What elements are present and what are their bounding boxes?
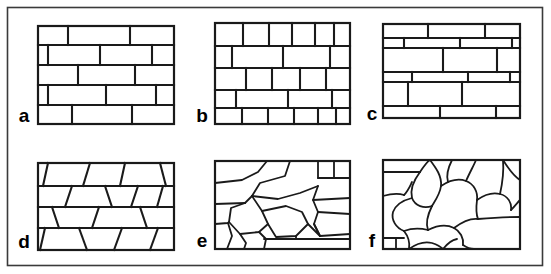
panel-a-coursed-running-bond: a [19,26,174,126]
panel-f-rounded-cobble: f [369,160,520,251]
panel-b-small-block-coursed: b [196,23,350,126]
panel-d-trapezoidal-coursed: d [18,163,174,252]
panel-d-label: d [18,231,30,252]
panel-a-border [38,26,174,124]
panel-b-label: b [196,105,208,126]
panel-f-label: f [369,230,376,251]
masonry-pattern-diagram: a [0,0,551,274]
panel-e-label: e [197,230,208,251]
panel-f-border [383,160,520,249]
panel-a-label: a [19,105,30,126]
panel-c-alternating-course-height: c [367,24,520,124]
panel-e-irregular-polygonal: e [197,161,350,251]
figure-container: a [0,0,551,274]
panel-c-label: c [367,103,378,124]
